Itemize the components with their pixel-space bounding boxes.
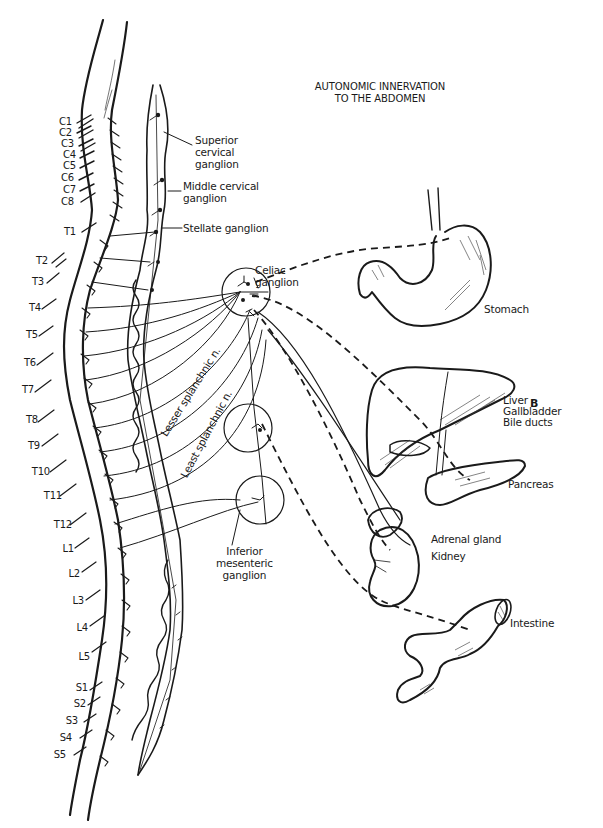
title-line-1: AUTONOMIC INNERVATION <box>300 81 460 93</box>
pancreas-label: Pancreas <box>508 478 554 490</box>
segment-t3: T3 <box>18 276 44 288</box>
segment-s3: S3 <box>52 715 78 727</box>
segment-t5: T5 <box>12 329 38 341</box>
inferior-mesenteric-ganglion-label: Inferior mesenteric ganglion <box>216 545 273 581</box>
segment-t12: T12 <box>46 519 72 531</box>
segment-l3: L3 <box>58 595 84 607</box>
intestine-label: Intestine <box>510 617 554 629</box>
preganglionic-fibers <box>84 232 268 548</box>
adrenal-gland-label: Adrenal gland <box>431 533 501 545</box>
segment-t10: T10 <box>24 466 50 478</box>
segment-t6: T6 <box>10 357 36 369</box>
sympathetic-trunk <box>128 85 183 775</box>
superior-cervical-ganglion-label: Superior cervical ganglion <box>195 134 239 170</box>
kidney-label: Kidney <box>431 550 466 562</box>
segment-t4: T4 <box>15 302 41 314</box>
segment-l2: L2 <box>54 568 80 580</box>
stomach-illustration <box>358 188 490 326</box>
segment-l1: L1 <box>48 543 74 555</box>
segment-c7: C7 <box>50 184 76 196</box>
celiac-ganglion-label: Celiac ganglion <box>255 264 299 288</box>
intestine-illustration <box>397 597 514 702</box>
stomach-label: Stomach <box>484 303 529 315</box>
segment-t2: T2 <box>22 255 48 267</box>
segment-l4: L4 <box>62 622 88 634</box>
title-line-2: TO THE ABDOMEN <box>300 93 460 105</box>
diagram-title: AUTONOMIC INNERVATION TO THE ABDOMEN <box>300 81 460 105</box>
kidney-illustration <box>368 508 419 606</box>
segment-s2: S2 <box>60 698 86 710</box>
autonomic-innervation-diagram: AUTONOMIC INNERVATION TO THE ABDOMEN B C… <box>0 0 603 828</box>
segment-c5: C5 <box>50 160 76 172</box>
stellate-ganglion-label: Stellate ganglion <box>183 222 268 234</box>
middle-cervical-ganglion-label: Middle cervical ganglion <box>183 180 259 204</box>
segment-t8: T8 <box>12 414 38 426</box>
segment-s5: S5 <box>40 749 66 761</box>
segment-c6: C6 <box>48 172 74 184</box>
segment-t1: T1 <box>50 226 76 238</box>
segment-t7: T7 <box>8 384 34 396</box>
liver-illustration <box>367 367 515 476</box>
postganglionic-fibers <box>252 238 470 630</box>
segment-c8: C8 <box>48 196 74 208</box>
segment-t9: T9 <box>14 440 40 452</box>
segment-l5: L5 <box>64 651 90 663</box>
bile-ducts-label: Bile ducts <box>503 416 553 428</box>
segment-s1: S1 <box>62 682 88 694</box>
segment-t11: T11 <box>36 490 62 502</box>
segment-s4: S4 <box>46 732 72 744</box>
